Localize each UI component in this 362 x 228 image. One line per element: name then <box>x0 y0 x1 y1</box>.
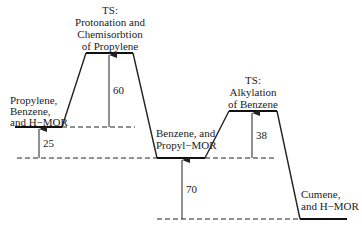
intermediate-label: Benzene, and Propyl−MOR <box>156 127 217 151</box>
energy-profile-diagram: 60 25 38 70 TS: Protonation and Chemisor… <box>0 0 362 228</box>
slope-ts1-intermediate <box>133 53 157 158</box>
slope-ts2-products <box>277 111 300 219</box>
svg-text:and H−MOR: and H−MOR <box>10 116 69 128</box>
energy-value-70: 70 <box>186 183 198 195</box>
svg-text:TS:: TS: <box>245 74 261 86</box>
svg-text:and H−MOR: and H−MOR <box>301 200 360 212</box>
reactants-label: Propylene, Benzene, and H−MOR <box>10 94 69 128</box>
svg-text:of Benzene: of Benzene <box>228 98 278 110</box>
svg-text:Alkylation: Alkylation <box>229 86 277 98</box>
svg-text:Propyl−MOR: Propyl−MOR <box>156 139 217 151</box>
ts1-label: TS: Protonation and Chemisorbtion of Pro… <box>75 4 145 52</box>
svg-text:of Propylene: of Propylene <box>82 40 139 52</box>
energy-value-25: 25 <box>43 137 55 149</box>
svg-text:Chemisorbtion: Chemisorbtion <box>77 28 143 40</box>
products-label: Cumene, and H−MOR <box>301 188 360 212</box>
energy-value-60: 60 <box>113 84 125 96</box>
svg-text:Benzene, and: Benzene, and <box>156 127 216 139</box>
svg-text:Protonation and: Protonation and <box>75 16 145 28</box>
ts2-label: TS: Alkylation of Benzene <box>228 74 278 110</box>
svg-text:Cumene,: Cumene, <box>301 188 341 200</box>
svg-text:TS:: TS: <box>102 4 118 16</box>
energy-value-38: 38 <box>256 129 268 141</box>
